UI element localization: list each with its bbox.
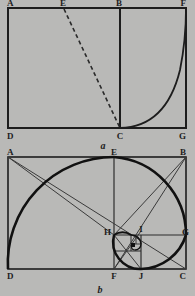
spiral-arc-7 bbox=[135, 244, 141, 250]
figure-a-canvas: A E B F D C G a bbox=[0, 0, 195, 150]
arc-CF bbox=[120, 9, 186, 128]
label-A: A bbox=[7, 0, 14, 8]
label-A: A bbox=[7, 147, 14, 157]
figure-b-canvas: A E B H I G D F J C b bbox=[0, 145, 195, 296]
figure-b-caption: b bbox=[98, 284, 103, 295]
label-C: C bbox=[180, 271, 187, 281]
label-E: E bbox=[111, 147, 117, 157]
label-F: F bbox=[181, 0, 187, 8]
label-C: C bbox=[117, 131, 124, 141]
label-B: B bbox=[180, 147, 186, 157]
label-I: I bbox=[139, 224, 143, 234]
spiral-arc-1 bbox=[8, 157, 114, 269]
figure-plate: A E B F D C G a bbox=[0, 0, 195, 296]
label-E: E bbox=[60, 0, 66, 8]
figure-a: A E B F D C G a bbox=[0, 0, 195, 150]
label-H: H bbox=[104, 227, 111, 237]
spiral-arc-8 bbox=[132, 247, 136, 251]
segment-EC-dashed bbox=[64, 9, 120, 128]
label-J: J bbox=[139, 271, 144, 281]
label-F: F bbox=[111, 271, 117, 281]
label-D: D bbox=[7, 131, 14, 141]
diagonal-AH bbox=[8, 157, 114, 235]
diagonal-AC bbox=[8, 157, 186, 269]
rect-AFGD bbox=[8, 8, 186, 128]
label-B: B bbox=[116, 0, 122, 8]
label-G: G bbox=[182, 227, 189, 237]
spiral-eye bbox=[131, 243, 135, 247]
label-D: D bbox=[7, 271, 14, 281]
spiral-arc-3 bbox=[141, 235, 186, 269]
figure-b: A E B H I G D F J C b bbox=[0, 145, 195, 296]
label-G: G bbox=[179, 131, 186, 141]
